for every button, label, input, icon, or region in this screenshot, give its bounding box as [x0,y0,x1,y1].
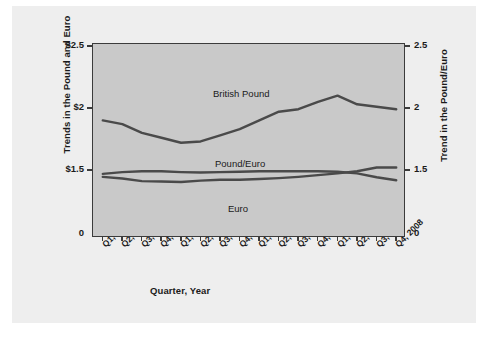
series-line-euro [103,168,396,182]
series-line-british-pound [103,96,396,143]
plot-lines [93,44,406,238]
y-tick-mark [405,107,410,109]
series-label-euro: Euro [228,203,248,214]
y-tick-mark [87,107,92,109]
y-tick-mark [405,169,410,171]
y-tick-mark [87,45,92,47]
y-tick-mark [87,169,92,171]
series-label-pound-euro: Pound/Euro [215,158,265,169]
series-label-british-pound: British Pound [213,88,270,99]
plot-area [92,43,405,237]
chart-figure: Trends in the Pound and Euro Trend in th… [0,0,488,338]
y-tick-mark [405,45,410,47]
